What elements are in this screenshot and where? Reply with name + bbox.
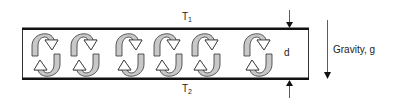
gravity-arrow-icon [324, 20, 331, 79]
convection-cells [32, 34, 272, 77]
top-temperature-label: T1 [182, 12, 192, 23]
bottom-plate [22, 78, 309, 81]
gap-label: d [284, 48, 290, 58]
gravity-label: Gravity, g [333, 45, 375, 55]
bottom-temperature-label: T2 [182, 84, 192, 95]
top-plate [22, 28, 309, 31]
